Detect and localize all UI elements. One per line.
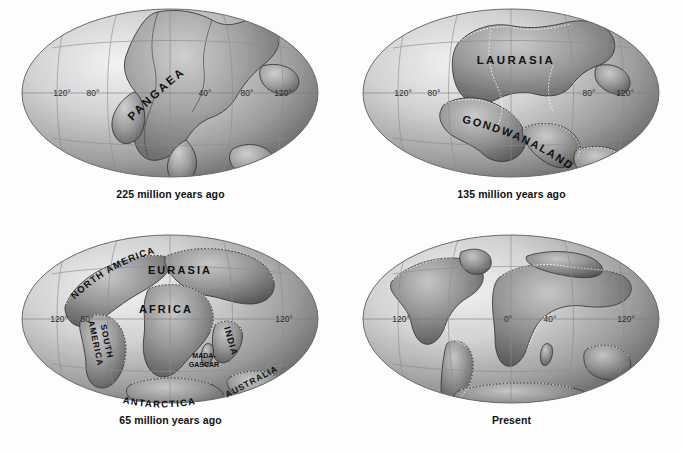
lon-label: 80° — [87, 88, 100, 98]
lon-label: 120° — [392, 314, 410, 324]
continental-drift-figure: 120° 80° 40° 80° 120° PANGAEA 225 millio… — [0, 0, 683, 452]
lon-label: 120° — [53, 88, 71, 98]
lon-label: 120° — [274, 88, 292, 98]
panel-caption: 65 million years ago — [0, 414, 341, 426]
panel-225ma: 120° 80° 40° 80° 120° PANGAEA 225 millio… — [0, 0, 341, 226]
landmass-label-mada: MADA- — [192, 352, 216, 359]
lon-label: 120° — [394, 88, 412, 98]
panel-135ma: 120° 80° 80° 120° LAURASIA GONDWANALAND … — [341, 0, 682, 226]
globe-225ma: 120° 80° 40° 80° 120° PANGAEA — [0, 0, 341, 190]
panel-caption: 135 million years ago — [341, 188, 682, 200]
landmass-label-eurasia: EURASIA — [148, 264, 212, 276]
landmass-label-gascar: GASCAR — [189, 361, 219, 368]
landmass-label-laurasia: LAURASIA — [477, 54, 556, 66]
panel-present: 120° 0° 40° 120° Present — [341, 226, 682, 452]
panel-65ma: 120° 80° 120° NORTH AMERICA EURASIA AFRI… — [0, 226, 341, 452]
lon-label: 120° — [617, 314, 635, 324]
lon-label: 120° — [275, 314, 293, 324]
panel-caption: Present — [341, 414, 682, 426]
landmass-label-africa: AFRICA — [139, 303, 193, 315]
lon-label: 0° — [504, 314, 512, 324]
globe-present: 120° 0° 40° 120° — [341, 226, 682, 416]
globe-135ma: 120° 80° 80° 120° LAURASIA GONDWANALAND — [341, 0, 682, 190]
globe-65ma: 120° 80° 120° NORTH AMERICA EURASIA AFRI… — [0, 226, 341, 416]
lon-label: 80° — [428, 88, 441, 98]
lon-label: 40° — [199, 88, 212, 98]
panel-caption: 225 million years ago — [0, 188, 341, 200]
lon-label: 40° — [544, 314, 557, 324]
lon-label: 80° — [583, 88, 596, 98]
lon-label: 80° — [241, 88, 254, 98]
lon-label: 120° — [616, 88, 634, 98]
lon-label: 120° — [50, 314, 68, 324]
